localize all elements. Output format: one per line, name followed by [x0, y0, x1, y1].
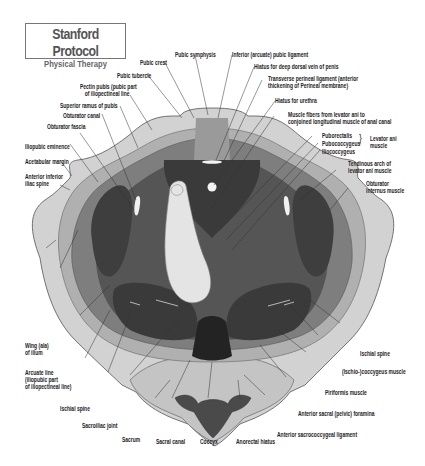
label-tendinous-arch: Tendinous arch oflevator ani muscle — [348, 160, 391, 174]
label-iliopubic-eminence: Iliopubic eminence — [25, 143, 70, 150]
label-ischial-spine-left: Ischial spine — [60, 405, 90, 412]
label-pubic-tubercle: Pubic tubercle — [117, 72, 151, 79]
label-sacral-canal: Sacral canal — [156, 438, 185, 445]
label-pectin-pubis: Pectin pubis (pubic partof iliopectineal… — [80, 83, 137, 97]
label-wing-of-ilium: Wing (ala)of ilium — [25, 342, 49, 356]
label-pubic-symphysis: Pubic symphysis — [175, 51, 216, 58]
label-pubic-crest: Pubic crest — [140, 59, 167, 66]
levator-ani-brace: } — [359, 135, 362, 142]
label-obturator-internus: Obturatorinternus muscle — [366, 180, 404, 194]
label-iliococcygeus: Iliococcygeus — [322, 148, 355, 155]
label-pubococcygeus: Pubococcygeus — [322, 140, 360, 147]
label-transverse-perineal-ligament: Transverse perineal ligament (anteriorth… — [268, 75, 358, 89]
urethra-hiatus — [208, 183, 217, 192]
label-obturator-fascia: Obturator fascia — [47, 123, 86, 130]
label-ischial-spine-right: Ischial spine — [360, 350, 390, 357]
label-acetabular-margin: Acetabular margin — [25, 158, 69, 165]
label-arcuate-line: Arcuate line(iliopubic partof iliopectin… — [25, 369, 72, 391]
label-levator-ani: Levator animuscle — [370, 135, 397, 149]
dorsal-vein-hiatus — [202, 160, 222, 164]
label-anorectal-hiatus: Anorectal hiatus — [236, 438, 275, 445]
label-sacroiliac-joint: Sacroiliac joint — [82, 422, 117, 429]
label-puborectalis: Puborectalis — [322, 132, 352, 139]
anorectal-hiatus — [192, 316, 232, 361]
label-sacrum: Sacrum — [122, 436, 140, 443]
label-inferior-pubic-ligament: Inferior (arcuate) pubic ligament — [232, 51, 308, 58]
label-hiatus-dorsal-vein: Hiatus for deep dorsal vein of penis — [254, 63, 338, 70]
label-muscle-fibers: Muscle fibers from levator ani toconjoin… — [288, 111, 391, 125]
label-superior-ramus: Superior ramus of pubis — [60, 102, 118, 109]
label-coccyx: Coccyx — [200, 438, 218, 445]
label-obturator-canal: Obturator canal — [63, 112, 100, 119]
label-anterior-sacrococcygeal-ligament: Anterior sacrococcygeal ligament — [277, 431, 357, 438]
label-hiatus-urethra: Hiatus for urethra — [275, 97, 317, 104]
label-anterior-sacral-foramina: Anterior sacral (pelvic) foramina — [298, 410, 374, 417]
label-anterior-inferior-iliac-spine: Anterior inferioriliac spine — [25, 173, 63, 187]
label-ischiococcygeus: (Ischio-)coccygeus muscle — [342, 368, 406, 375]
label-piriformis: Piriformis muscle — [325, 389, 367, 396]
